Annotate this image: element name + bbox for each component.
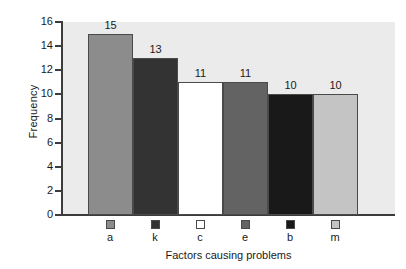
- x-axis-title: Factors causing problems: [62, 249, 395, 262]
- bar-value-label: 10: [313, 79, 358, 91]
- y-tick-label-wrap: 16: [0, 16, 53, 27]
- bar-e: [223, 82, 268, 215]
- bar-k: [133, 58, 178, 215]
- y-tick-label: 2: [1, 185, 53, 196]
- y-tick-label: 14: [1, 40, 53, 51]
- y-tick-mark: [55, 45, 62, 47]
- legend-label-m: m: [313, 231, 357, 243]
- legend-swatch-a: [106, 220, 115, 229]
- legend-item-a[interactable]: a: [88, 220, 132, 243]
- y-tick-mark: [55, 190, 62, 192]
- legend-label-b: b: [268, 231, 312, 243]
- legend-swatch-e: [241, 220, 250, 229]
- legend-swatch-m: [331, 220, 340, 229]
- y-tick-mark: [55, 214, 62, 216]
- y-tick-label: 0: [1, 209, 53, 220]
- y-tick-label: 12: [1, 64, 53, 75]
- y-tick-mark: [55, 166, 62, 168]
- bar-chart: Frequency 0246810121416 151311111010 akc…: [0, 0, 406, 269]
- legend-item-b[interactable]: b: [268, 220, 312, 243]
- y-tick-label-wrap: 2: [0, 185, 53, 196]
- y-tick-label-wrap: 14: [0, 40, 53, 51]
- y-tick-label: 10: [1, 88, 53, 99]
- y-tick-label-wrap: 6: [0, 137, 53, 148]
- bar-m: [313, 94, 358, 215]
- legend-item-k[interactable]: k: [133, 220, 177, 243]
- legend-label-c: c: [178, 231, 222, 243]
- y-tick-mark: [55, 21, 62, 23]
- bar-b: [268, 94, 313, 215]
- y-tick-mark: [55, 142, 62, 144]
- legend-label-a: a: [88, 231, 132, 243]
- legend-swatch-c: [196, 220, 205, 229]
- legend-swatch-b: [286, 220, 295, 229]
- legend-label-k: k: [133, 231, 177, 243]
- y-tick-label-wrap: 10: [0, 88, 53, 99]
- y-tick-label: 6: [1, 137, 53, 148]
- bar-value-label: 15: [88, 19, 133, 31]
- legend-item-m[interactable]: m: [313, 220, 357, 243]
- legend-label-e: e: [223, 231, 267, 243]
- y-tick-label-wrap: 0: [0, 209, 53, 220]
- y-tick-label: 4: [1, 161, 53, 172]
- y-tick-label: 8: [1, 113, 53, 124]
- bar-a: [88, 34, 133, 215]
- bar-c: [178, 82, 223, 215]
- legend-swatch-k: [151, 220, 160, 229]
- bar-value-label: 11: [223, 67, 268, 79]
- bar-value-label: 11: [178, 67, 223, 79]
- y-tick-label-wrap: 4: [0, 161, 53, 172]
- bar-value-label: 13: [133, 43, 178, 55]
- y-tick-label-wrap: 8: [0, 113, 53, 124]
- y-tick-mark: [55, 93, 62, 95]
- y-tick-label-wrap: 12: [0, 64, 53, 75]
- y-tick-mark: [55, 118, 62, 120]
- y-tick-mark: [55, 69, 62, 71]
- bar-value-label: 10: [268, 79, 313, 91]
- y-tick-label: 16: [1, 16, 53, 27]
- legend-item-e[interactable]: e: [223, 220, 267, 243]
- legend-item-c[interactable]: c: [178, 220, 222, 243]
